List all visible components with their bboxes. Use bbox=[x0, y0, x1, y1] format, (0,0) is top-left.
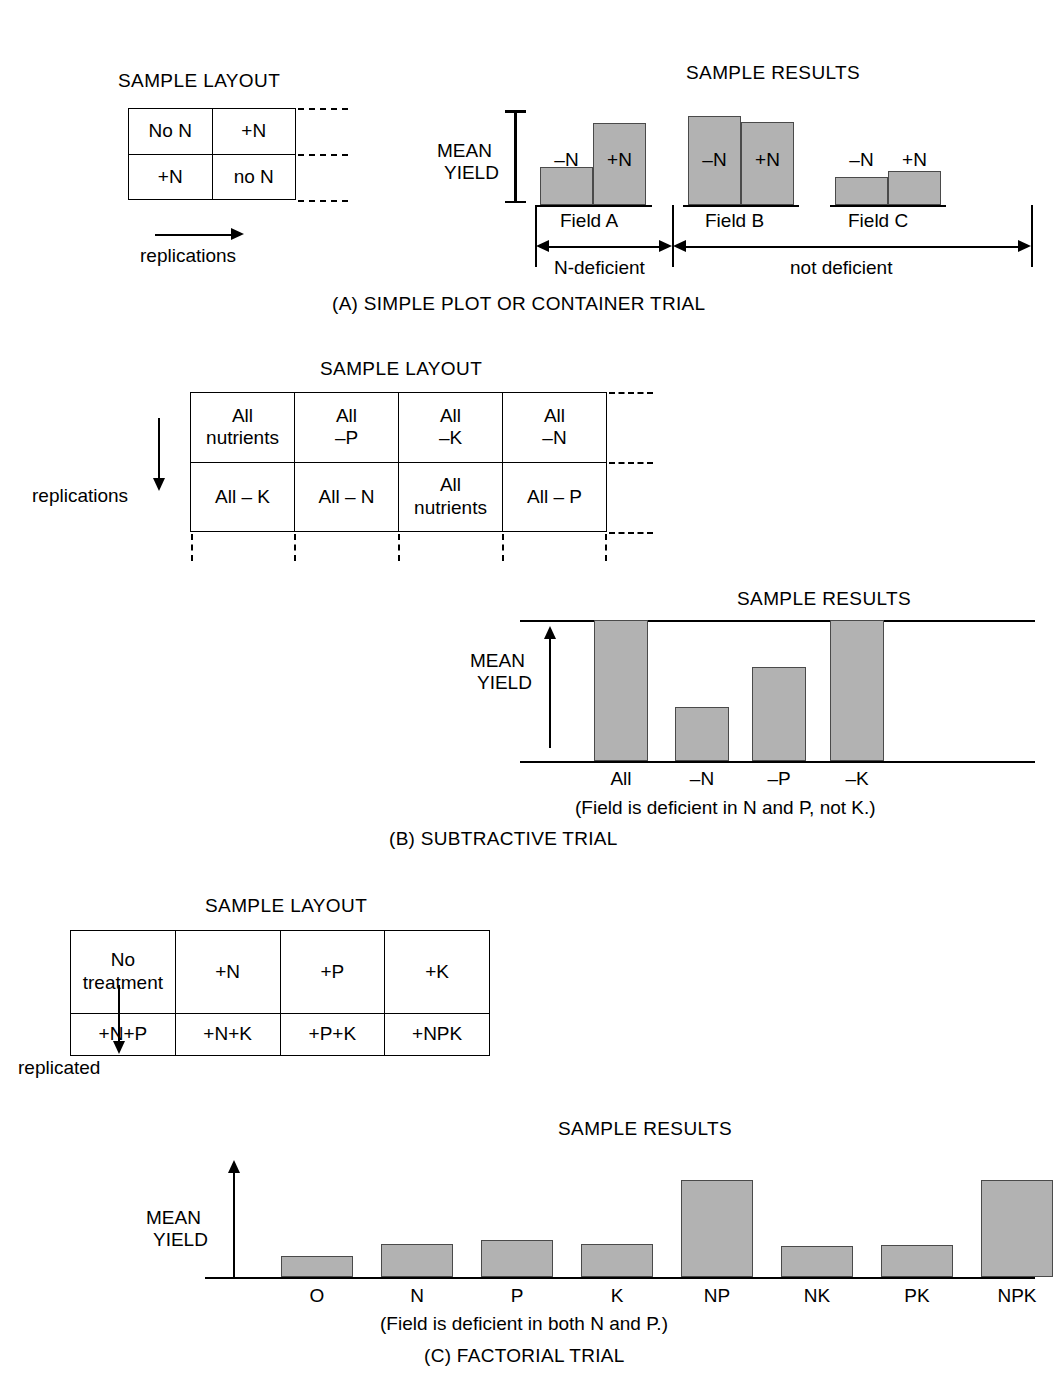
cell-text: All –N bbox=[542, 405, 566, 448]
not-deficient-arrow-head-left bbox=[673, 240, 686, 252]
panel-c-xtick-6: PK bbox=[881, 1285, 953, 1307]
panel-b-chart bbox=[520, 620, 1035, 761]
cell-text: +N+K bbox=[203, 1023, 252, 1044]
panel-c-replicated-arrow-line bbox=[118, 985, 120, 1043]
table-continuation-dash bbox=[609, 392, 653, 394]
table-continuation-dash bbox=[298, 200, 348, 202]
panel-c-note: (Field is deficient in both N and P.) bbox=[380, 1313, 668, 1335]
bar-fieldA-minusN bbox=[540, 167, 593, 205]
cell-b-1-2: All nutrients bbox=[399, 462, 503, 532]
panel-a-baseline-C bbox=[830, 205, 946, 207]
cell-a-1-1: no N bbox=[212, 154, 296, 200]
panel-c-caption: (C) FACTORIAL TRIAL bbox=[424, 1345, 625, 1367]
bar-minus-n bbox=[675, 707, 729, 761]
n-deficient-arrow-head-right bbox=[659, 240, 672, 252]
bar-label-fieldB-plusN: +N bbox=[741, 149, 794, 171]
table-continuation-dash bbox=[609, 532, 653, 534]
table-continuation-dash bbox=[298, 108, 348, 110]
table-continuation-dash-vert bbox=[502, 534, 504, 561]
mean-yield-scale-bracket bbox=[505, 110, 526, 203]
bar-p bbox=[481, 1240, 553, 1277]
bracket-tick-mid bbox=[672, 205, 674, 267]
cell-b-1-3: All – P bbox=[503, 462, 607, 532]
table-row: All nutrients All –P All –K All –N bbox=[191, 393, 607, 463]
panel-b-axis-label-1: MEAN bbox=[470, 650, 525, 672]
cell-text: +K bbox=[425, 961, 449, 982]
bar-npk bbox=[981, 1180, 1053, 1277]
panel-b-xtick-0: All bbox=[594, 768, 648, 790]
panel-c-replicated-label: replicated bbox=[18, 1057, 100, 1079]
panel-a-axis-label-2: YIELD bbox=[444, 162, 499, 184]
cell-text: +N bbox=[215, 961, 240, 982]
panel-a-group-label-2: Field C bbox=[848, 210, 908, 232]
bar-label-fieldA-plusN: +N bbox=[593, 149, 646, 171]
panel-c-baseline bbox=[205, 1277, 1035, 1279]
panel-a-layout-table: No N +N +N no N bbox=[128, 108, 296, 200]
cell-text: All – N bbox=[319, 486, 375, 507]
table-continuation-dash bbox=[298, 154, 348, 156]
bar-label-fieldB-minusN: –N bbox=[688, 149, 741, 171]
panel-c-xtick-7: NPK bbox=[981, 1285, 1053, 1307]
panel-c-axis-label-2: YIELD bbox=[153, 1229, 208, 1251]
panel-c-xtick-4: NP bbox=[681, 1285, 753, 1307]
cell-a-1-0: +N bbox=[129, 154, 213, 200]
bar-nk bbox=[781, 1246, 853, 1277]
panel-b-caption: (B) SUBTRACTIVE TRIAL bbox=[389, 828, 618, 850]
table-continuation-dash-vert bbox=[294, 534, 296, 561]
panel-a-bracket-label-1: not deficient bbox=[790, 257, 892, 279]
panel-b-replications-label: replications bbox=[32, 485, 128, 507]
panel-b-xtick-1: –N bbox=[675, 768, 729, 790]
cell-text: All – K bbox=[215, 486, 270, 507]
cell-text: +P+K bbox=[309, 1023, 357, 1044]
panel-b-baseline bbox=[520, 761, 1035, 763]
panel-b-layout-title: SAMPLE LAYOUT bbox=[320, 358, 482, 380]
table-continuation-dash-vert bbox=[605, 534, 607, 561]
bar-k bbox=[581, 1244, 653, 1277]
panel-a-axis-label-1: MEAN bbox=[437, 140, 492, 162]
bar-label-fieldC-minusN: –N bbox=[835, 149, 888, 171]
not-deficient-arrow-line bbox=[682, 246, 1022, 248]
table-row: +N+P +N+K +P+K +NPK bbox=[71, 1013, 490, 1055]
not-deficient-arrow-head-right bbox=[1018, 240, 1031, 252]
cell-c-0-1: +N bbox=[175, 931, 280, 1014]
panel-c-xtick-2: P bbox=[481, 1285, 553, 1307]
panel-b-replications-arrow-line bbox=[158, 418, 160, 480]
bar-fieldC-minusN bbox=[835, 177, 888, 205]
bar-minus-p bbox=[752, 667, 806, 761]
panel-a-caption: (A) SIMPLE PLOT OR CONTAINER TRIAL bbox=[332, 293, 705, 315]
panel-c-results-title: SAMPLE RESULTS bbox=[558, 1118, 732, 1140]
table-continuation-dash bbox=[609, 462, 653, 464]
bracket-tick-left bbox=[535, 205, 537, 267]
panel-a-chart: –N +N –N +N –N +N bbox=[535, 100, 1035, 205]
cell-b-1-0: All – K bbox=[191, 462, 295, 532]
panel-b-xtick-2: –P bbox=[752, 768, 806, 790]
table-continuation-dash-vert bbox=[398, 534, 400, 561]
cell-c-1-3: +NPK bbox=[385, 1013, 490, 1055]
cell-text: All – P bbox=[527, 486, 582, 507]
bar-label-fieldC-plusN: +N bbox=[888, 149, 941, 171]
cell-c-0-2: +P bbox=[280, 931, 385, 1014]
bar-np bbox=[681, 1180, 753, 1277]
panel-a-group-label-0: Field A bbox=[560, 210, 618, 232]
cell-text: All –K bbox=[439, 405, 462, 448]
bar-o bbox=[281, 1256, 353, 1277]
bar-all bbox=[594, 620, 648, 761]
replications-arrow-head bbox=[231, 228, 244, 240]
panel-c-axis-arrow-head bbox=[228, 1160, 240, 1173]
replications-arrow-line bbox=[155, 234, 233, 236]
panel-a-baseline-B bbox=[683, 205, 799, 207]
panel-c-xtick-1: N bbox=[381, 1285, 453, 1307]
cell-c-1-2: +P+K bbox=[280, 1013, 385, 1055]
n-deficient-arrow-head-left bbox=[536, 240, 549, 252]
panel-c-xtick-5: NK bbox=[781, 1285, 853, 1307]
cell-c-0-3: +K bbox=[385, 931, 490, 1014]
bar-fieldC-plusN bbox=[888, 171, 941, 205]
panel-a-layout-title: SAMPLE LAYOUT bbox=[118, 70, 280, 92]
cell-text: No treatment bbox=[83, 949, 163, 992]
panel-c-xtick-0: O bbox=[281, 1285, 353, 1307]
cell-b-0-1: All –P bbox=[295, 393, 399, 463]
bar-n bbox=[381, 1244, 453, 1277]
table-row: All – K All – N All nutrients All – P bbox=[191, 462, 607, 532]
cell-text: All nutrients bbox=[414, 474, 487, 517]
panel-b-layout-table: All nutrients All –P All –K All –N All –… bbox=[190, 392, 607, 532]
